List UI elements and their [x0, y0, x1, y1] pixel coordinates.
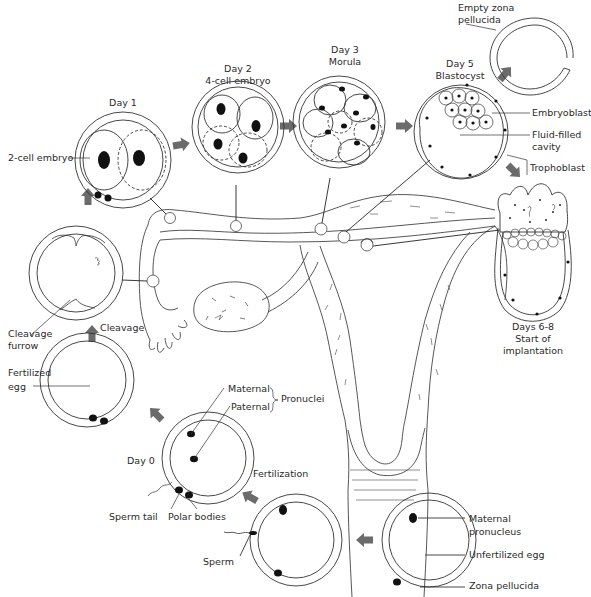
fluid-cavity-label-2: cavity	[532, 141, 561, 153]
cleavage-furrow-label-1: Cleavage	[8, 328, 52, 340]
maternal-pronucleus	[409, 513, 417, 523]
unfertilized-egg	[382, 493, 476, 587]
day2-label: Day 2	[224, 63, 252, 75]
arrow-icon	[172, 136, 191, 153]
fertilization-label: Fertilization	[253, 468, 308, 480]
arrow-icon	[503, 160, 525, 182]
day3-label: Day 3	[331, 44, 359, 56]
day3-morula	[293, 76, 385, 168]
four-cell-embryo-label: 4-cell embryo	[205, 75, 270, 87]
embryoblast-label: Embryoblast	[532, 107, 591, 119]
diagram-artwork	[0, 0, 591, 597]
arrow-icon	[145, 403, 167, 425]
day2-four-cell	[192, 81, 284, 173]
polar-body	[175, 487, 183, 494]
days-6-8-label: Days 6-8	[512, 321, 554, 333]
unfertilized-egg-label: Unfertilized egg	[469, 549, 545, 561]
fertilization-egg	[224, 494, 342, 586]
arrow-icon	[356, 533, 373, 547]
arrow-icon	[280, 119, 297, 133]
trophoblast-label: Trophoblast	[530, 162, 585, 174]
fluid-cavity-label-1: Fluid-filled	[532, 129, 581, 141]
day5-label: Day 5	[446, 58, 474, 70]
maternal-pronucleus-label-1: Maternal	[469, 513, 511, 525]
zona-pellucida-label: Zona pellucida	[469, 580, 539, 592]
polar-bodies-label: Polar bodies	[168, 511, 226, 523]
cleavage-label: Cleavage	[100, 322, 144, 334]
blastocyst-label: Blastocyst	[436, 70, 485, 82]
arrow-icon	[81, 188, 95, 205]
maternal-pronucleus-label-2: pronucleus	[469, 526, 521, 538]
two-cell-embryo-label: 2-cell embryo	[8, 152, 73, 164]
empty-zona-label-1: Empty zona	[458, 2, 514, 14]
tube-embryos	[147, 213, 373, 288]
sperm-tail-label: Sperm tail	[109, 511, 158, 523]
morula-label: Morula	[329, 56, 361, 68]
maternal-label: Maternal	[228, 383, 270, 395]
sperm-head	[249, 531, 257, 535]
empty-zona-pellucida	[466, 18, 573, 95]
connector-lines	[122, 160, 500, 281]
implantation-label: implantation	[503, 345, 563, 357]
cleavage-egg	[29, 226, 123, 336]
polar-body	[185, 492, 193, 499]
embryo-development-diagram: Day 1 2-cell embryo Day 2 4-cell embryo …	[0, 0, 591, 597]
fertilized-egg-label-1: Fertilized	[8, 367, 51, 379]
day0-label: Day 0	[127, 455, 155, 467]
sperm-label: Sperm	[203, 556, 234, 568]
polar-body	[393, 579, 401, 586]
fertilized-egg	[33, 333, 134, 427]
pronuclei-label: Pronuclei	[281, 393, 324, 405]
implantation-blastocyst	[495, 184, 572, 322]
arrow-icon	[396, 119, 413, 133]
fertilized-egg-label-2: egg	[8, 381, 26, 393]
empty-zona-label-2: pellucida	[458, 14, 501, 26]
start-of-label: Start of	[515, 333, 550, 345]
paternal-label: Paternal	[231, 401, 270, 413]
day1-label: Day 1	[109, 97, 137, 109]
cleavage-furrow-label-2: furrow	[8, 340, 38, 352]
